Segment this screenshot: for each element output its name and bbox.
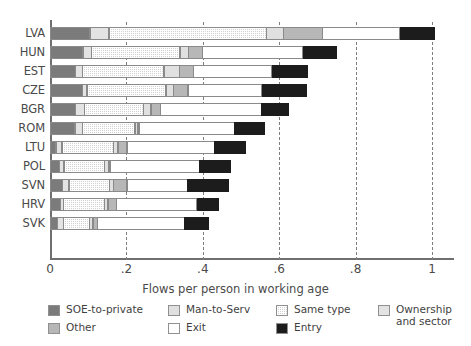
bar-segment [64,160,105,173]
bar-segment [193,65,272,78]
bar-segment [179,65,194,78]
bar-segment [139,122,235,135]
bar-segment [234,122,264,135]
gridline-.8 [356,22,357,260]
bar-row [50,160,231,173]
legend-item-entry[interactable]: Entry [276,322,322,333]
bar-segment [214,141,246,154]
bar-row [50,84,307,97]
bar-segment [50,84,83,97]
bar-row [50,141,246,154]
bar-segment [50,27,90,40]
y-tick-label-pol: POL [0,159,45,173]
bar-segment [110,160,200,173]
bar-segment [69,179,110,192]
bar-segment [50,103,76,116]
bar-segment [87,84,167,97]
x-tick-label: .2 [121,262,132,276]
bar-segment [113,179,127,192]
bar-row [50,217,209,230]
x-tick-label: 0 [46,262,54,276]
bar-row [50,198,219,211]
bar-segment [303,46,337,59]
bar-segment [50,179,63,192]
bar-segment [90,27,110,40]
bar-segment [84,103,144,116]
x-tick-label: 1 [428,262,436,276]
y-tick-label-bgr: BGR [0,102,45,116]
y-tick-label-rom: ROM [0,121,45,135]
bar-segment [322,27,400,40]
bar-segment [188,46,203,59]
legend-item-soe-to-private[interactable]: SOE-to-private [48,304,143,315]
y-tick-label-svk: SVK [0,216,45,230]
legend-swatch-icon [168,305,180,316]
bar-segment [50,198,61,211]
bar-row [50,122,265,135]
bar-segment [266,27,283,40]
bar-segment [272,65,308,78]
bar-row [50,179,229,192]
bar-segment [202,46,303,59]
bar-segment [187,179,229,192]
bar-segment [400,27,435,40]
bar-segment [116,198,197,211]
bar-segment [283,27,323,40]
bar-segment [160,103,262,116]
legend-swatch-icon [48,305,60,316]
x-tick-label: .8 [350,262,361,276]
legend-item-ownership-and-sector[interactable]: Ownershipand sector [378,304,452,327]
y-tick-label-ltu: LTU [0,140,45,154]
bar-row [50,65,308,78]
legend-label: Exit [186,322,206,333]
bar-segment [97,217,185,230]
bar-segment [63,198,105,211]
legend-label: Other [66,322,96,333]
bar-segment [173,84,188,97]
legend-item-exit[interactable]: Exit [168,322,206,333]
bar-segment [262,84,307,97]
x-tick-label: .6 [273,262,284,276]
legend-label: Ownershipand sector [396,304,452,327]
bar-segment [82,122,135,135]
legend-swatch-icon [276,305,288,316]
legend-item-man-to-serv[interactable]: Man-to-Serv [168,304,250,315]
y-tick-label-hun: HUN [0,45,45,59]
y-tick-label-est: EST [0,64,45,78]
chart-figure: LVAHUNESTCZEBGRROMLTUPOLSVNHRVSVK 0.2.4.… [0,0,471,346]
x-axis-title: Flows per person in working age [0,282,471,296]
bar-segment [50,122,75,135]
legend-label: SOE-to-private [66,304,143,315]
bar-segment [127,141,215,154]
bar-segment [164,65,180,78]
legend-swatch-icon [378,305,390,316]
bar-segment [184,217,209,230]
legend-swatch-icon [276,323,288,334]
legend-label: Entry [294,322,322,333]
legend-label: Man-to-Serv [186,304,250,315]
bar-row [50,27,435,40]
x-tick-label: .4 [197,262,208,276]
chart-legend: SOE-to-privateOtherMan-to-ServExitSame t… [48,300,448,344]
legend-item-other[interactable]: Other [48,322,96,333]
bar-segment [261,103,289,116]
bar-segment [199,160,231,173]
bar-segment [127,179,188,192]
legend-swatch-icon [48,323,60,334]
y-tick-label-cze: CZE [0,83,45,97]
y-tick-label-svn: SVN [0,178,45,192]
bar-segment [91,46,180,59]
bar-segment [82,65,164,78]
bar-segment [50,46,83,59]
legend-label: Same type [294,304,351,315]
gridline-1 [432,22,433,260]
y-tick-label-hrv: HRV [0,197,45,211]
legend-swatch-icon [168,323,180,334]
bar-segment [63,217,90,230]
bar-segment [109,27,267,40]
legend-item-same-type[interactable]: Same type [276,304,351,315]
y-tick-label-lva: LVA [0,26,45,40]
bar-segment [188,84,263,97]
bar-row [50,103,289,116]
bar-segment [62,141,114,154]
